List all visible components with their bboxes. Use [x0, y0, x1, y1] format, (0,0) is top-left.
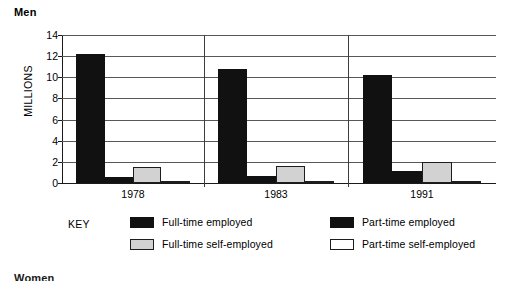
y-tick-label: 10 [18, 72, 58, 82]
bar [161, 181, 189, 183]
y-tick-label: 12 [18, 51, 58, 61]
gridline [62, 77, 496, 78]
x-tick-label: 1978 [103, 188, 163, 200]
y-tick-label: 6 [18, 115, 58, 125]
bar [276, 166, 305, 183]
group-divider [204, 35, 205, 187]
legend-swatch [330, 239, 354, 250]
bar [133, 167, 161, 183]
bar [422, 162, 452, 183]
bar [105, 177, 133, 183]
gridline [62, 120, 496, 121]
legend-key-label: KEY [68, 218, 90, 230]
legend-label: Full-time self-employed [162, 238, 273, 250]
plot-area [62, 35, 496, 183]
bar [305, 181, 334, 183]
group-divider [348, 35, 349, 187]
x-tick-label: 1991 [392, 188, 452, 200]
next-section-title: Women [14, 272, 55, 281]
legend-label: Part-time self-employed [362, 238, 475, 250]
legend-label: Part-time employed [362, 216, 455, 228]
bar [392, 171, 422, 183]
bar [247, 176, 276, 183]
y-tick-label: 4 [18, 136, 58, 146]
bar [363, 75, 393, 183]
x-tick-label: 1983 [246, 188, 306, 200]
y-tick-label: 2 [18, 157, 58, 167]
gridline [62, 56, 496, 57]
y-axis-ticks: 02468101214 [12, 0, 58, 281]
legend-swatch [330, 217, 354, 228]
y-tick-label: 0 [18, 178, 58, 188]
axis-baseline [62, 183, 496, 184]
gridline [62, 35, 496, 36]
bar [452, 181, 482, 183]
legend-swatch [130, 239, 154, 250]
legend-swatch [130, 217, 154, 228]
y-tick-label: 14 [18, 30, 58, 40]
y-tick-label: 8 [18, 93, 58, 103]
bar [218, 69, 247, 183]
legend-label: Full-time employed [162, 216, 253, 228]
chart-legend: KEY Full-time employedPart-time employed… [68, 216, 488, 258]
gridline [62, 98, 496, 99]
gridline [62, 141, 496, 142]
bar [76, 54, 104, 183]
